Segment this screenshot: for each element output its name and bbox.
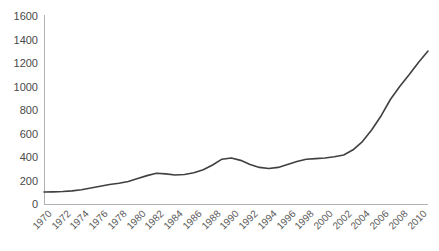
plot-area	[0, 0, 439, 251]
line-chart: 16001400120010008006004002000 1970197219…	[0, 0, 439, 251]
data-series-line	[44, 51, 428, 192]
